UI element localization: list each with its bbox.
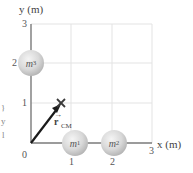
y-axis-label: y (m) bbox=[19, 4, 43, 15]
grid-lines bbox=[31, 24, 152, 143]
mass-m3-label: m bbox=[26, 58, 33, 69]
edge-fragment-1: } bbox=[1, 104, 5, 113]
r-cm-label: → r CM bbox=[54, 116, 72, 132]
y-tick-3: 3 bbox=[22, 19, 27, 29]
mass-m3: m3 bbox=[18, 50, 44, 76]
x-axis-label: x (m) bbox=[157, 139, 181, 150]
mass-m3-sub: 3 bbox=[33, 59, 37, 67]
origin-label: 0 bbox=[22, 150, 27, 160]
mass-m1-sub: 1 bbox=[77, 139, 81, 147]
r-cm-label-sub: CM bbox=[61, 122, 72, 130]
x-tick-2: 2 bbox=[110, 157, 115, 167]
center-of-mass-figure: y (m) x (m) 0 1 2 3 1 2 3 m1 m2 m3 → r C… bbox=[0, 0, 193, 173]
y-tick-2: 2 bbox=[12, 58, 17, 68]
mass-m1-label: m bbox=[70, 138, 77, 149]
x-tick-1: 1 bbox=[69, 157, 74, 167]
mass-m1: m1 bbox=[62, 130, 88, 156]
mass-m2-label: m bbox=[109, 138, 116, 149]
mass-m2: m2 bbox=[101, 130, 127, 156]
axes bbox=[31, 24, 152, 143]
edge-fragment-2: y bbox=[1, 117, 6, 126]
vector-arrow-icon: → bbox=[54, 109, 62, 120]
mass-m2-sub: 2 bbox=[116, 139, 120, 147]
x-tick-3: 3 bbox=[149, 146, 154, 156]
y-tick-1: 1 bbox=[22, 98, 27, 108]
edge-fragment-3: l bbox=[2, 131, 5, 140]
